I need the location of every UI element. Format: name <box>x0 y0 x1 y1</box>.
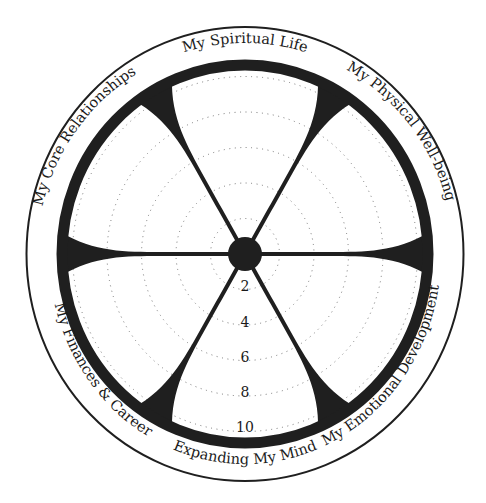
scale-label-10: 10 <box>236 419 254 435</box>
spoke-0 <box>245 232 429 276</box>
scale-label-6: 6 <box>241 349 250 365</box>
scale-label-2: 2 <box>241 278 250 294</box>
scale-label-4: 4 <box>241 314 250 330</box>
scale-label-8: 8 <box>241 384 250 400</box>
wheel-of-life-diagram: My Spiritual Life My Physical Well-being… <box>0 0 486 503</box>
spoke-4 <box>134 78 247 255</box>
segment-label-emotional: My Emotional Development <box>319 283 442 448</box>
segment-label-spiritual: My Spiritual Life <box>180 30 310 55</box>
spoke-5 <box>243 78 356 255</box>
spoke-2 <box>134 253 247 430</box>
segment-label-core-relationships: My Core Relationships <box>30 63 139 207</box>
spoke-1 <box>243 253 356 430</box>
hub <box>228 237 262 271</box>
spoke-3 <box>61 232 245 276</box>
scale-labels: 2 4 6 8 10 <box>236 278 254 435</box>
